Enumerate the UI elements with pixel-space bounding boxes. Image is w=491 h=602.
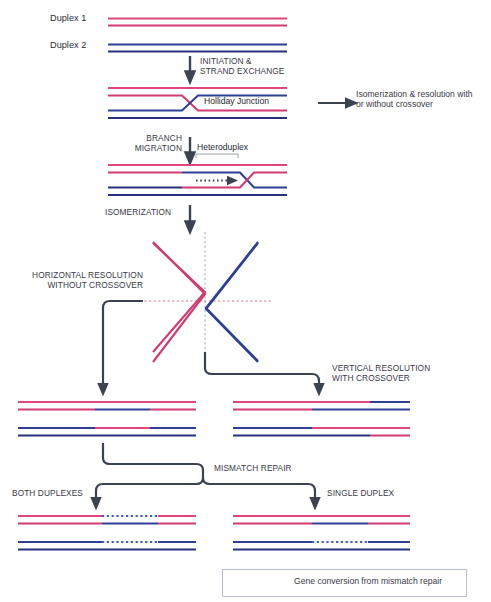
label-heteroduplex: Heteroduplex <box>197 143 248 153</box>
final-left-duplex-bottom <box>18 542 196 550</box>
connector-vertical-resolution <box>205 352 319 390</box>
duplex1-strands <box>108 19 287 26</box>
label-holliday-junction: Holliday Junction <box>204 97 269 107</box>
connector-mismatch-split-right <box>203 478 315 504</box>
label-both-duplexes: BOTH DUPLEXES <box>12 489 83 499</box>
label-duplex-1: Duplex 1 <box>50 13 86 24</box>
final-right-duplex-top <box>233 516 410 524</box>
connector-mismatch-repair <box>103 443 203 478</box>
label-single-duplex: SINGLE DUPLEX <box>327 489 394 499</box>
connector-mismatch-split-left <box>96 478 203 504</box>
branch-migration-structure <box>108 165 287 195</box>
connector-horizontal-resolution <box>103 301 143 390</box>
label-initiation-strand-exchange: INITIATION & STRAND EXCHANGE <box>200 57 284 76</box>
label-branch-migration: BRANCH MIGRATION <box>104 134 182 153</box>
final-right-duplex-bottom <box>233 542 410 550</box>
label-isomerization-resolution: Isomerization & resolution with or witho… <box>356 90 473 110</box>
chi-structure <box>140 232 272 362</box>
label-mismatch-repair: MISMATCH REPAIR <box>214 464 292 474</box>
label-isomerization: ISOMERIZATION <box>105 208 171 218</box>
product-right-duplex-bottom <box>233 428 410 436</box>
legend-label: Gene conversion from mismatch repair <box>294 577 442 587</box>
duplex2-strands <box>108 45 287 52</box>
product-left-duplex-top <box>18 402 196 410</box>
label-vertical-resolution: VERTICAL RESOLUTION WITH CROSSOVER <box>332 364 430 383</box>
product-right-duplex-top <box>233 402 410 410</box>
label-horizontal-resolution: HORIZONTAL RESOLUTION WITHOUT CROSSOVER <box>8 271 143 290</box>
diagram-canvas: Duplex 1 Duplex 2 INITIATION & STRAND EX… <box>0 0 491 602</box>
final-left-duplex-top <box>18 516 196 524</box>
product-left-duplex-bottom <box>18 428 196 436</box>
heteroduplex-bracket <box>196 154 238 158</box>
label-duplex-2: Duplex 2 <box>50 40 86 51</box>
